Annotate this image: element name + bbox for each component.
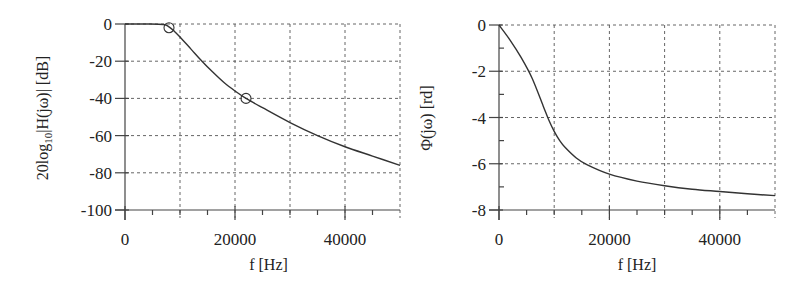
x-axis-label: f [Hz] xyxy=(618,256,657,273)
y-tick-label: -2 xyxy=(472,62,486,81)
magnitude-chart: 0-20-40-60-80-10002000040000f [Hz]20log1… xyxy=(34,15,400,273)
x-tick-label: 0 xyxy=(495,230,504,249)
magnitude-curve xyxy=(125,24,400,165)
phase-curve xyxy=(499,25,775,196)
y-tick-label: -4 xyxy=(472,109,487,128)
phase-chart: 0-2-4-6-802000040000f [Hz]Φ(jω) [rd] xyxy=(418,16,775,273)
y-tick-label: -60 xyxy=(89,127,112,146)
x-tick-label: 20000 xyxy=(214,230,257,249)
y-tick-label: -6 xyxy=(472,155,486,174)
x-tick-label: 0 xyxy=(121,230,130,249)
x-tick-label: 20000 xyxy=(588,230,631,249)
x-tick-label: 40000 xyxy=(324,230,367,249)
y-tick-label: -20 xyxy=(89,52,112,71)
bode-plots: 0-20-40-60-80-10002000040000f [Hz]20log1… xyxy=(0,0,799,293)
x-axis-label: f [Hz] xyxy=(249,256,288,273)
y-axis-label: Φ(jω) [rd] xyxy=(418,85,436,150)
y-tick-label: 0 xyxy=(104,15,113,34)
y-tick-label: -40 xyxy=(89,89,112,108)
y-tick-label: -100 xyxy=(81,201,112,220)
x-tick-label: 40000 xyxy=(699,230,742,249)
y-tick-label: -8 xyxy=(472,201,486,220)
y-tick-label: 0 xyxy=(478,16,487,35)
y-tick-label: -80 xyxy=(89,164,112,183)
y-axis-label: 20log10|H(jω)| [dB] xyxy=(34,56,54,180)
